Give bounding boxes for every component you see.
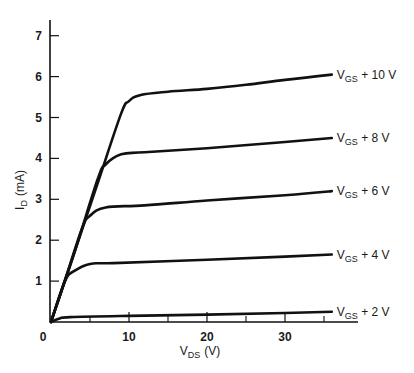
x-tick-label: 30: [278, 330, 292, 344]
x-tick-label: 0: [40, 330, 47, 344]
y-axis-title: ID(mA): [13, 170, 29, 210]
y-tick-label: 5: [35, 111, 42, 125]
curve-label: VGS + 2 V: [337, 305, 390, 321]
y-tick-label: 4: [35, 151, 42, 165]
axis-ticks: 12345670102030: [35, 29, 324, 344]
x-axis-title: VDS(V): [180, 344, 221, 360]
axes: [50, 20, 358, 322]
curve--8-v: [51, 138, 332, 322]
chart: 12345670102030 VGS + 10 VVGS + 8 VVGS + …: [0, 0, 414, 373]
curve-label: VGS + 4 V: [337, 248, 390, 264]
curve-labels: VGS + 10 VVGS + 8 VVGS + 6 VVGS + 4 VVGS…: [337, 68, 396, 321]
y-tick-label: 7: [35, 29, 42, 43]
curve--2-v: [51, 312, 332, 322]
y-tick-label: 1: [35, 274, 42, 288]
curve-label: VGS + 10 V: [337, 68, 396, 84]
x-tick-label: 10: [122, 330, 136, 344]
y-tick-label: 3: [35, 192, 42, 206]
x-tick-label: 20: [200, 330, 214, 344]
curve--10-v: [51, 75, 332, 322]
y-tick-label: 6: [35, 70, 42, 84]
y-tick-label: 2: [35, 233, 42, 247]
curves: [51, 75, 332, 322]
curve-label: VGS + 6 V: [337, 184, 390, 200]
curve-label: VGS + 8 V: [337, 131, 390, 147]
